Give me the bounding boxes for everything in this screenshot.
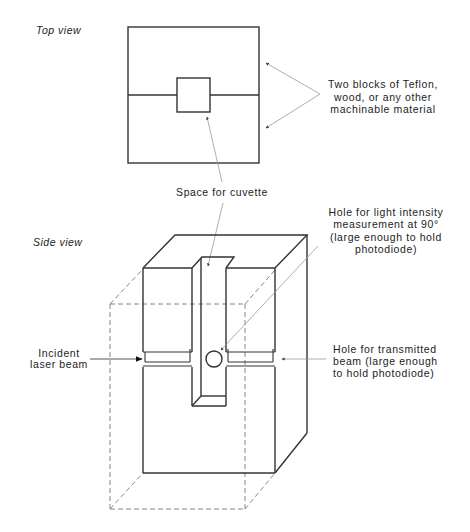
blocks-pointer-lower [266, 94, 320, 128]
blocks-label-line-1: Two blocks of Teflon, [328, 78, 438, 90]
hole-90-label-line-3: (large enough to hold [330, 231, 442, 243]
transmitted-label-line-1: Hole for transmitted [333, 343, 437, 355]
hole-90-pointer [221, 246, 318, 350]
transmitted-label-line-3: to hold photodiode) [333, 367, 434, 379]
hole-90-label-line-1: Hole for light intensity [329, 206, 444, 218]
transmitted-label-line-2: beam (large enough [333, 355, 438, 367]
cuvette-pointer-top [207, 117, 222, 182]
transmitted-hole-channel [226, 349, 275, 366]
cuvette-holder-diagram: Top view Two blocks of Teflon, wood, or … [0, 0, 470, 532]
side-view-title: Side view [33, 236, 83, 248]
blocks-label-line-2: wood, or any other [333, 91, 432, 103]
side-view: Side view [30, 206, 444, 509]
cuvette-slot [192, 257, 234, 406]
hole-90-label-line-2: measurement at 90° [333, 218, 438, 230]
incident-label-line-2: laser beam [30, 358, 88, 370]
side-view-block [143, 235, 307, 473]
top-view-title: Top view [36, 24, 82, 36]
cuvette-label: Space for cuvette [176, 186, 268, 198]
blocks-pointer-upper [266, 63, 320, 94]
hole-90-label-line-4: photodiode) [355, 243, 417, 255]
cuvette-space-top [177, 78, 210, 112]
blocks-label-line-3: machinable material [330, 103, 435, 115]
laser-channel-left [143, 349, 192, 366]
hole-90-degree [206, 351, 222, 367]
